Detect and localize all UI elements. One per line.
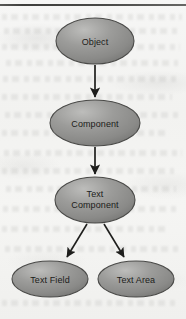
node-text-area-label: Text Area	[117, 275, 155, 285]
node-text-area[interactable]: Text Area	[98, 261, 174, 297]
edge-text-component-to-text-area	[104, 224, 124, 257]
node-text-field-label: Text Field	[30, 275, 70, 285]
node-component-label: Component	[71, 119, 119, 129]
node-text-component[interactable]: Text Component	[55, 177, 135, 223]
hierarchy-diagram: Object Component Text Component Text Fie…	[0, 0, 186, 319]
edge-group	[67, 65, 124, 257]
node-component[interactable]: Component	[50, 100, 140, 146]
node-object-label: Object	[82, 37, 109, 47]
node-text-component-label-line1: Text	[87, 189, 104, 199]
diagram-page: Object Component Text Component Text Fie…	[0, 0, 186, 319]
node-object[interactable]: Object	[56, 18, 134, 64]
edge-text-component-to-text-field	[67, 224, 87, 257]
node-text-component-label-line2: Component	[71, 200, 119, 210]
node-text-field[interactable]: Text Field	[12, 261, 88, 297]
